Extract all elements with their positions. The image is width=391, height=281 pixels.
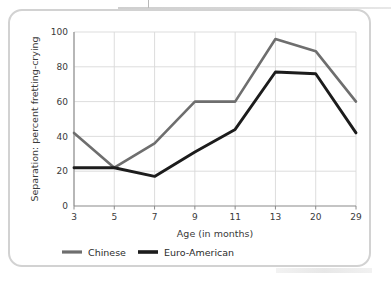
y-tick-label: 100 — [51, 27, 68, 37]
x-tick-label: 11 — [229, 212, 240, 222]
vertical-gridlines — [74, 32, 356, 206]
y-tick-label: 0 — [62, 201, 68, 211]
y-tick-label: 40 — [57, 132, 69, 142]
x-axis-title: Age (in months) — [177, 228, 253, 239]
y-axis-title: Separation: percent fretting-crying — [29, 36, 40, 201]
x-tick-labels: 357911132029 — [71, 206, 362, 222]
y-tick-label: 60 — [57, 97, 69, 107]
x-tick-label: 13 — [270, 212, 281, 222]
y-tick-labels: 100806040200 — [51, 27, 68, 211]
series-line-euro-american — [74, 72, 356, 176]
x-tick-label: 3 — [71, 212, 77, 222]
x-tick-label: 7 — [152, 212, 158, 222]
chart-legend: Chinese Euro-American — [62, 247, 234, 258]
x-tick-label: 9 — [192, 212, 198, 222]
line-chart: 100806040200 357911132029 Separation: pe… — [0, 0, 391, 281]
series-line-chinese — [74, 39, 356, 168]
y-tick-label: 20 — [57, 166, 69, 176]
x-tick-label: 5 — [111, 212, 117, 222]
x-tick-label: 29 — [350, 212, 362, 222]
legend-label-chinese: Chinese — [88, 247, 126, 258]
x-tick-label: 20 — [310, 212, 322, 222]
y-tick-label: 80 — [57, 62, 69, 72]
legend-label-euro-american: Euro-American — [164, 247, 234, 258]
